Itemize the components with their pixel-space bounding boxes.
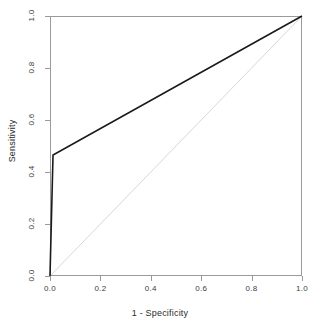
y-tick-mark <box>45 120 50 121</box>
x-tick-label: 0.8 <box>240 284 264 293</box>
y-tick-label: 1.0 <box>27 6 36 26</box>
x-tick-mark <box>100 276 101 281</box>
x-tick-label: 0.0 <box>38 284 62 293</box>
y-tick-mark <box>45 68 50 69</box>
x-tick-label: 0.2 <box>88 284 112 293</box>
series-layer <box>50 16 302 276</box>
y-tick-mark <box>45 224 50 225</box>
y-tick-mark <box>45 16 50 17</box>
y-axis-label: Sensitivity <box>7 91 17 191</box>
x-tick-label: 0.4 <box>139 284 163 293</box>
y-tick-label: 0.2 <box>27 214 36 234</box>
x-tick-label: 1.0 <box>290 284 314 293</box>
x-tick-mark <box>151 276 152 281</box>
y-tick-label: 0.4 <box>27 162 36 182</box>
plot-drawing-area <box>50 16 302 276</box>
x-tick-mark <box>201 276 202 281</box>
y-tick-mark <box>45 276 50 277</box>
chance-diagonal-line <box>50 16 302 276</box>
x-tick-mark <box>302 276 303 281</box>
y-tick-mark <box>45 172 50 173</box>
y-tick-label: 0.0 <box>27 266 36 286</box>
y-tick-label: 0.8 <box>27 58 36 78</box>
roc-plot-figure: 0.00.20.40.60.81.0 0.00.20.40.60.81.0 1 … <box>0 0 320 328</box>
x-tick-mark <box>252 276 253 281</box>
x-tick-mark <box>50 276 51 281</box>
x-tick-label: 0.6 <box>189 284 213 293</box>
y-tick-label: 0.6 <box>27 110 36 130</box>
x-axis-label: 1 - Specificity <box>0 308 320 318</box>
